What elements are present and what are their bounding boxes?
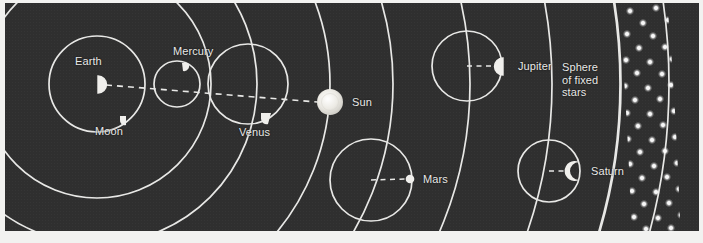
deferent-arcs (5, 3, 621, 231)
star (628, 187, 636, 195)
deferent-arc-4 (5, 3, 330, 231)
star (635, 44, 643, 52)
star (626, 7, 634, 15)
epicycle-mercury (154, 61, 200, 107)
star (644, 84, 652, 92)
star (652, 188, 660, 196)
star (630, 213, 638, 221)
star (663, 173, 671, 181)
star (658, 70, 666, 78)
star (626, 160, 634, 168)
moon-glyph (120, 116, 126, 125)
star (661, 43, 669, 51)
star (664, 16, 672, 24)
star (646, 58, 654, 66)
star (633, 69, 641, 77)
star (656, 95, 664, 103)
star (649, 32, 657, 40)
label-saturn: Saturn (591, 165, 624, 178)
epicycle-venus (208, 44, 288, 124)
star (675, 185, 683, 193)
label-mars: Mars (423, 173, 448, 186)
star (642, 225, 650, 231)
diagram-canvas: Earth Moon Mercury Venus Sun Mars Jupite… (5, 3, 699, 231)
star (673, 159, 681, 167)
star (646, 110, 654, 118)
star (650, 162, 658, 170)
label-moon: Moon (95, 125, 123, 138)
star (623, 30, 631, 38)
saturn-glyph (565, 161, 579, 181)
star (665, 199, 673, 207)
star (667, 224, 675, 231)
star (622, 56, 630, 64)
star (661, 147, 669, 155)
star (671, 133, 679, 141)
star (648, 136, 656, 144)
figure-frame: Earth Moon Mercury Venus Sun Mars Jupite… (0, 0, 703, 243)
star (624, 135, 632, 143)
label-earth: Earth (75, 55, 102, 68)
deferent-arc-1 (49, 36, 145, 132)
mercury-glyph (182, 63, 189, 71)
star (631, 96, 639, 104)
star (621, 82, 629, 90)
celestial-bodies (98, 58, 579, 183)
star-sphere-inner-arc (5, 3, 620, 231)
epicycles (154, 31, 580, 221)
label-sphere-of-fixed-stars: Sphere of fixed stars (562, 61, 598, 99)
deferent-arc-2 (5, 3, 211, 198)
earth-glyph (98, 76, 107, 93)
star (623, 109, 631, 117)
label-sun: Sun (352, 96, 372, 109)
deferent-arc-8 (5, 3, 621, 231)
star (640, 200, 648, 208)
label-jupiter: Jupiter (518, 60, 552, 73)
sun-glyph (317, 89, 343, 115)
star (654, 214, 662, 222)
star (639, 19, 647, 27)
label-venus: Venus (239, 126, 270, 139)
star (677, 211, 685, 219)
star (638, 174, 646, 182)
deferent-arc-6 (5, 3, 470, 231)
mars-glyph (406, 175, 415, 184)
star (634, 122, 642, 130)
star (668, 55, 676, 63)
star (667, 81, 675, 89)
star (659, 121, 667, 129)
star-field (621, 4, 685, 231)
star (670, 107, 678, 115)
jupiter-glyph (495, 58, 504, 75)
star (636, 148, 644, 156)
star (652, 4, 660, 12)
orbit-diagram-svg (5, 3, 699, 231)
label-mercury: Mercury (173, 45, 213, 58)
